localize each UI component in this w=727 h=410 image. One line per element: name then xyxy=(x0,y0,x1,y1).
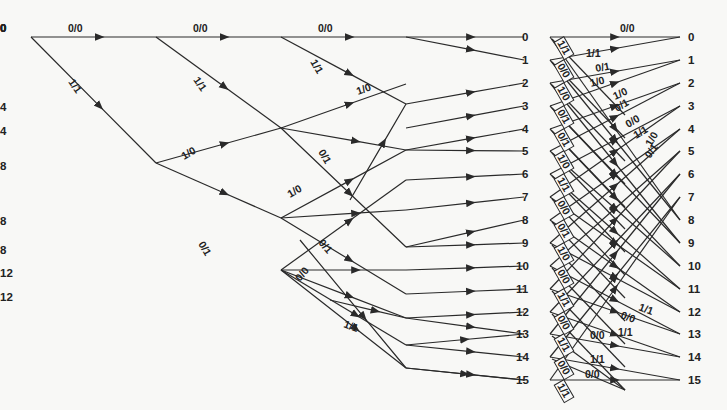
trellis-branch xyxy=(281,84,406,128)
state-label-final: 2 xyxy=(688,77,694,89)
trellis-branch xyxy=(406,312,524,318)
state-label: 12 xyxy=(0,291,13,303)
branch-label: 1/1 xyxy=(191,74,209,93)
state-label-final: 11 xyxy=(688,283,701,295)
trellis-branch xyxy=(281,270,406,368)
state-label-final: 7 xyxy=(688,191,694,203)
trellis-branch xyxy=(281,210,406,218)
trellis-branch xyxy=(406,83,524,104)
branch-label: 0/0 xyxy=(619,309,637,325)
state-label-final: 14 xyxy=(688,351,701,363)
branch-label: 0/0 xyxy=(620,22,635,34)
branch-label: 0/0 xyxy=(318,22,333,34)
state-label-final: 6 xyxy=(688,168,694,180)
label-layer: 0/01/10/01/11/00/10/01/11/00/11/00/10/01… xyxy=(0,22,701,403)
state-label-stage4: 6 xyxy=(522,168,528,180)
branch-label: 0/1 xyxy=(316,147,334,166)
state-label-stage4: 4 xyxy=(522,123,529,135)
state-label: 8 xyxy=(0,244,7,256)
trellis-branch xyxy=(406,220,524,247)
state-label-stage4: 15 xyxy=(516,374,529,386)
branch-label: 0/0 xyxy=(585,368,600,380)
state-label-final: 0 xyxy=(688,31,694,43)
trellis-branch xyxy=(406,243,524,247)
branch-label: 0/0 xyxy=(193,22,208,34)
trellis-branch xyxy=(281,37,406,104)
state-label-final: 13 xyxy=(688,328,701,340)
trellis-branch xyxy=(406,129,524,150)
trellis-diagram: 0/01/10/01/11/00/10/01/11/00/11/00/10/01… xyxy=(0,0,727,410)
trellis-branch xyxy=(330,300,406,318)
trellis-branch xyxy=(406,150,524,151)
branch-label: 0/0 xyxy=(590,329,605,341)
state-label: 4 xyxy=(0,101,7,113)
state-label-stage4: 8 xyxy=(522,214,529,226)
trellis-branch xyxy=(300,240,406,368)
state-label-stage4: 5 xyxy=(522,145,529,157)
state-label-stage4: 7 xyxy=(522,191,528,203)
branch-label: 0/1 xyxy=(196,239,214,258)
state-label-stage4: 3 xyxy=(522,100,528,112)
state-label-final: 1 xyxy=(688,54,695,66)
branch-label: 1/1 xyxy=(586,47,601,59)
state-label-final: 4 xyxy=(688,123,695,135)
state-label-stage4: 0 xyxy=(522,31,528,43)
trellis-svg: 0/01/10/01/11/00/10/01/11/00/11/00/10/01… xyxy=(0,0,727,410)
branch-label: 0/1 xyxy=(594,60,611,74)
trellis-branch xyxy=(156,163,281,218)
state-label-final: 3 xyxy=(688,100,694,112)
state-label-stage4: 13 xyxy=(516,328,529,340)
state-label-stage4: 1 xyxy=(522,54,529,66)
branch-label: 1/1 xyxy=(637,301,655,317)
trellis-branch xyxy=(281,128,406,150)
branch-label: 0/0 xyxy=(68,22,83,34)
state-label: 12 xyxy=(0,267,13,279)
trellis-branch xyxy=(406,334,524,345)
trellis-branch xyxy=(31,37,156,163)
state-label-stage4: 11 xyxy=(516,283,529,295)
trellis-branch xyxy=(156,37,281,128)
branch-label: 0/1 xyxy=(316,237,335,256)
trellis-branch xyxy=(406,289,524,294)
state-label-stage4: 14 xyxy=(516,351,529,363)
trellis-branch xyxy=(406,37,524,60)
state-label-final: 8 xyxy=(688,214,695,226)
state-label: 0 xyxy=(0,22,6,34)
state-label: 8 xyxy=(0,215,7,227)
state-label-final: 15 xyxy=(688,374,701,386)
trellis-branch xyxy=(406,106,524,128)
branch-label: 1/1 xyxy=(618,326,633,338)
state-label-final: 12 xyxy=(688,306,701,318)
state-label-final: 5 xyxy=(688,145,695,157)
trellis-branch xyxy=(406,345,524,357)
state-label-stage4: 9 xyxy=(522,237,528,249)
branch-label: 1/0 xyxy=(179,144,198,162)
trellis-branch xyxy=(406,368,524,380)
state-label-final: 9 xyxy=(688,237,694,249)
branch-label: 1/1 xyxy=(342,318,360,334)
state-label: 8 xyxy=(0,160,7,172)
branch-label: 1/0 xyxy=(285,182,304,200)
trellis-branch xyxy=(406,266,524,270)
branch-label: 1/1 xyxy=(66,76,84,95)
state-label-stage4: 12 xyxy=(516,306,529,318)
branch-label: 1/0 xyxy=(355,81,373,97)
trellis-branch xyxy=(406,197,524,210)
trellis-branch xyxy=(406,174,524,180)
branch-label: 1/1 xyxy=(590,353,605,365)
state-label: 4 xyxy=(0,125,7,137)
state-label-final: 10 xyxy=(688,260,701,272)
state-label-stage4: 10 xyxy=(516,260,529,272)
state-label-stage4: 2 xyxy=(522,77,528,89)
trellis-branch xyxy=(406,318,524,334)
trellis-branch xyxy=(156,128,281,163)
trellis-branch xyxy=(281,150,406,218)
